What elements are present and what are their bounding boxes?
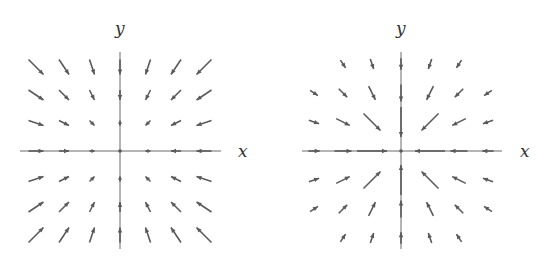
left-field-arrow [90,202,95,212]
right-field-arrow [309,120,319,124]
left-field-arrow [146,177,151,182]
left-field-arrow [197,176,212,182]
left-field-arrow [59,60,69,75]
right-field-arrow [422,114,439,131]
right-vector-field-panel: x y [302,18,530,249]
left-field-arrow [146,90,151,100]
left-field-arrow [197,149,212,153]
left-field-arrow [90,228,96,243]
left-field-arrow [118,121,122,126]
left-field-arrow [59,121,69,126]
right-field-arrow [336,177,350,184]
left-field-arrow [118,228,122,243]
left-field-arrow [118,90,122,100]
left-field-arrow [59,90,69,100]
left-field-arrow [29,60,44,75]
right-field-arrow [308,149,319,153]
left-field-arrow [146,149,151,153]
right-field-arrow [483,178,493,182]
left-field-arrow [146,121,151,126]
left-field-arrow [197,228,212,243]
left-field-arrow [29,121,44,127]
right-field-arrow [364,172,381,189]
right-field-arrow [310,206,318,211]
right-field-arrow [399,201,403,218]
right-arrow-group [308,58,493,243]
left-vector-field-panel: x y [20,18,248,249]
left-field-arrow [197,202,212,212]
vector-field-figure: x y x y [0,0,546,258]
left-field-arrow [171,202,181,212]
right-field-arrow [335,149,352,153]
left-field-arrow [59,177,69,182]
right-field-arrow [357,149,387,153]
left-y-axis-label: y [114,18,125,38]
right-x-axis-label: x [520,141,530,161]
left-field-arrow [59,149,69,153]
left-field-arrow [90,60,96,75]
left-field-arrow [90,177,95,182]
right-field-arrow [482,149,493,153]
right-field-arrow [456,60,461,68]
right-field-arrow [428,59,432,69]
right-field-arrow [427,202,434,216]
right-field-arrow [309,178,319,182]
left-field-arrow [118,149,122,153]
right-field-arrow [340,234,345,242]
right-field-arrow [370,59,374,69]
right-field-arrow [399,85,403,102]
right-field-arrow [484,206,492,211]
left-field-arrow [29,228,44,243]
left-field-arrow [118,202,122,212]
right-field-arrow [452,119,466,126]
right-field-arrow [369,202,376,216]
left-field-arrow [171,60,181,75]
right-field-arrow [399,58,403,69]
right-field-arrow [452,177,466,184]
left-field-arrow [197,60,212,75]
left-field-arrow [145,228,151,243]
left-field-arrow [90,90,95,100]
left-field-arrow [29,176,44,182]
right-field-arrow [370,233,374,243]
right-field-arrow [364,114,381,131]
left-field-arrow [171,149,181,153]
right-field-arrow [455,205,464,214]
right-field-arrow [339,89,348,98]
left-field-arrow [171,90,181,100]
left-field-arrow [197,90,212,100]
left-field-arrow [29,90,44,100]
right-field-arrow [399,107,403,137]
left-field-arrow [171,177,181,182]
right-field-arrow [399,149,403,153]
left-field-arrow [59,202,69,212]
right-field-arrow [399,165,403,195]
left-field-arrow [29,202,44,212]
right-field-arrow [310,90,318,95]
left-field-arrow [90,149,95,153]
right-field-arrow [339,205,348,214]
right-field-arrow [369,86,376,100]
left-x-axis-label: x [238,141,248,161]
left-field-arrow [197,121,212,127]
right-field-arrow [484,90,492,95]
right-field-arrow [451,149,468,153]
left-field-arrow [118,60,122,75]
left-field-arrow [171,228,181,243]
left-field-arrow [59,228,69,243]
left-field-arrow [171,121,181,126]
right-field-arrow [336,119,350,126]
left-field-arrow [29,149,44,153]
right-field-arrow [340,60,345,68]
right-field-arrow [428,233,432,243]
right-y-axis-label: y [395,18,406,38]
right-field-arrow [455,89,464,98]
right-field-arrow [456,234,461,242]
right-field-arrow [422,172,439,189]
right-field-arrow [399,232,403,243]
right-field-arrow [483,120,493,124]
left-field-arrow [146,202,151,212]
right-field-arrow [427,86,434,100]
right-field-arrow [415,149,445,153]
left-field-arrow [90,121,95,126]
